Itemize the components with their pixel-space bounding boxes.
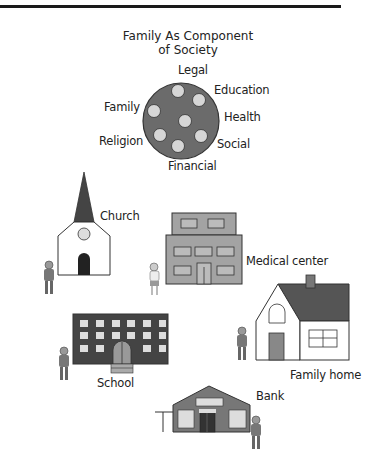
church-icon xyxy=(58,172,110,275)
label-medical-center: Medical center xyxy=(246,254,328,268)
person-school xyxy=(59,347,69,380)
label-social: Social xyxy=(217,137,250,151)
society-circle xyxy=(143,83,219,159)
bank-icon xyxy=(155,386,250,432)
person-church xyxy=(44,261,54,294)
family-home-icon xyxy=(256,275,349,360)
school-icon xyxy=(73,314,168,373)
person-bank xyxy=(251,416,261,449)
label-school: School xyxy=(97,376,134,390)
label-health: Health xyxy=(224,110,261,124)
person-home xyxy=(237,327,247,360)
label-religion: Religion xyxy=(99,134,143,148)
label-family-home: Family home xyxy=(290,368,361,382)
label-church: Church xyxy=(100,209,140,223)
label-family: Family xyxy=(104,100,140,114)
person-girl xyxy=(150,263,159,295)
label-legal: Legal xyxy=(178,63,208,77)
label-bank: Bank xyxy=(256,389,284,403)
label-financial: Financial xyxy=(168,159,217,173)
label-education: Education xyxy=(214,83,269,97)
medical-center-icon xyxy=(166,213,242,284)
